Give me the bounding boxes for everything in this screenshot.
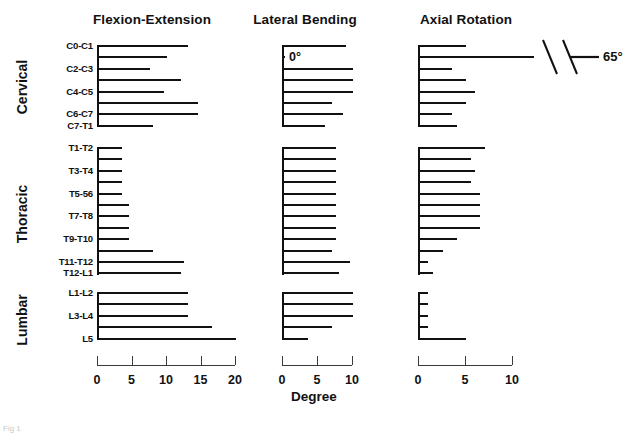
bar-p1-21 [283, 303, 353, 305]
x-tick-p0-0 [97, 356, 98, 365]
panel-title-1: Lateral Bending [225, 12, 385, 27]
bar-p2-1-broken [419, 56, 534, 58]
bar-p2-11 [419, 181, 471, 183]
vertical-axis-p1-b1 [282, 147, 284, 275]
bar-p2-5 [419, 102, 466, 104]
bar-p1-24 [283, 338, 308, 340]
bar-p1-5 [283, 102, 332, 104]
bar-p1-4 [283, 91, 353, 93]
bar-p1-2 [283, 68, 353, 70]
zero-degree-annotation: 0° [289, 50, 301, 64]
bar-p2-12 [419, 193, 480, 195]
row-label-16: T9-T10 [1, 233, 93, 244]
x-tick-label-p0-1: 5 [119, 373, 145, 387]
bar-p1-18 [283, 261, 350, 263]
x-tick-p2-2 [512, 356, 513, 365]
bar-p0-15 [98, 227, 129, 229]
bar-p2-4 [419, 91, 475, 93]
bar-p1-16 [283, 238, 336, 240]
bar-p0-17 [98, 250, 153, 252]
bar-p0-4 [98, 91, 164, 93]
bar-p0-22 [98, 315, 188, 317]
bar-p1-10 [283, 170, 336, 172]
bar-p2-9 [419, 158, 471, 160]
bar-p1-7 [283, 125, 325, 127]
x-tick-label-p2-1: 5 [452, 373, 478, 387]
bar-p1-6 [283, 113, 343, 115]
x-tick-label-p0-3: 15 [188, 373, 214, 387]
bar-p1-14 [283, 215, 336, 217]
axis-break-icon [533, 38, 613, 78]
bar-p0-8 [98, 147, 122, 149]
bar-p1-22 [283, 315, 353, 317]
bar-p0-7 [98, 125, 153, 127]
x-axis-caption: Degree [291, 389, 337, 404]
bar-p0-11 [98, 181, 122, 183]
panel-title-2: Axial Rotation [386, 12, 546, 27]
bar-p0-19 [98, 272, 181, 274]
bar-p2-15 [419, 227, 480, 229]
bar-p2-2 [419, 68, 452, 70]
x-tick-label-p1-2: 10 [339, 373, 365, 387]
bar-p0-12 [98, 193, 122, 195]
bar-p2-21 [419, 303, 428, 305]
bar-p0-6 [98, 113, 198, 115]
x-tick-label-p1-1: 5 [304, 373, 330, 387]
x-axis-line-p1 [282, 365, 352, 366]
row-label-24: L5 [1, 333, 93, 344]
bar-p0-3 [98, 79, 181, 81]
row-label-18: T11-T12 [1, 256, 93, 267]
x-tick-p1-0 [282, 356, 283, 365]
bar-p0-23 [98, 326, 212, 328]
bar-p1-8 [283, 147, 336, 149]
bar-p1-15 [283, 227, 336, 229]
bar-p2-13 [419, 204, 480, 206]
x-tick-p0-4 [235, 356, 236, 365]
x-tick-label-p0-4: 20 [222, 373, 248, 387]
bar-p1-0 [283, 45, 346, 47]
x-tick-p0-1 [132, 356, 133, 365]
bar-p0-14 [98, 215, 129, 217]
bar-p2-10 [419, 170, 475, 172]
bar-p0-0 [98, 45, 188, 47]
vertical-axis-p0-b1 [97, 147, 99, 275]
bar-p2-3 [419, 79, 466, 81]
x-tick-label-p0-2: 10 [153, 373, 179, 387]
bar-p0-24 [98, 338, 236, 340]
bar-p2-0 [419, 45, 466, 47]
x-tick-label-p2-2: 10 [499, 373, 525, 387]
x-tick-p1-1 [317, 356, 318, 365]
vertical-axis-p2-b1 [418, 147, 420, 275]
bar-p0-9 [98, 158, 122, 160]
bar-p0-21 [98, 303, 188, 305]
bar-p2-17 [419, 250, 443, 252]
bar-p2-19 [419, 272, 433, 274]
x-tick-p0-2 [166, 356, 167, 365]
row-label-19: T12-L1 [1, 267, 93, 278]
bar-p2-14 [419, 215, 480, 217]
x-tick-p1-2 [352, 356, 353, 365]
x-tick-label-p1-0: 0 [269, 373, 295, 387]
row-label-14: T7-T8 [1, 210, 93, 221]
row-label-2: C2-C3 [1, 63, 93, 74]
row-label-10: T3-T4 [1, 165, 93, 176]
bar-p0-5 [98, 102, 198, 104]
bar-p2-6 [419, 113, 452, 115]
row-label-7: C7-T1 [1, 120, 93, 131]
x-axis-line-p0 [97, 365, 235, 366]
bar-p2-16 [419, 238, 457, 240]
bar-p2-20 [419, 292, 428, 294]
bar-p2-24 [419, 338, 466, 340]
bar-p1-12 [283, 193, 336, 195]
row-label-8: T1-T2 [1, 142, 93, 153]
x-tick-label-p2-0: 0 [405, 373, 431, 387]
break-value-label: 65° [603, 49, 623, 64]
row-label-20: L1-L2 [1, 287, 93, 298]
bar-p1-9 [283, 158, 336, 160]
bar-p2-8 [419, 147, 485, 149]
panel-title-0: Flexion-Extension [72, 12, 232, 27]
x-tick-p2-0 [418, 356, 419, 365]
bar-p1-3 [283, 79, 353, 81]
row-label-12: T5-56 [1, 188, 93, 199]
x-tick-p0-3 [201, 356, 202, 365]
